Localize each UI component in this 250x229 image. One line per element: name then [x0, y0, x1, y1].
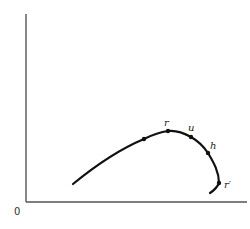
curve — [73, 131, 219, 193]
label-r-prime: r′ — [224, 179, 232, 190]
point-dot-u — [189, 135, 193, 139]
label-r: r — [164, 117, 170, 128]
label-h: h — [210, 140, 216, 151]
curve-diagram: 0 r u h r′ — [0, 0, 250, 229]
point-dot-r-prime — [217, 181, 221, 185]
point-dot-h — [206, 151, 210, 155]
point-dot-unlabeled — [142, 137, 146, 141]
point-dot-r — [166, 129, 170, 133]
origin-label: 0 — [14, 206, 20, 217]
label-u: u — [188, 122, 194, 133]
